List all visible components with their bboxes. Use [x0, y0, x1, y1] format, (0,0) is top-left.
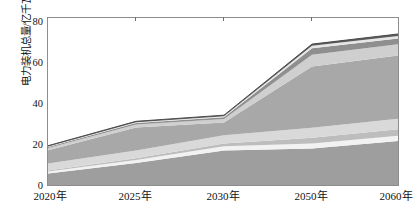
y-tick-label-40: 40 — [17, 99, 43, 109]
x-tick-label-2020: 2020年 — [18, 190, 82, 202]
stacked-area-series — [48, 18, 399, 186]
x-tick-label-2060: 2060年 — [364, 190, 416, 202]
x-tick-mark — [311, 17, 312, 21]
y-tick-label-80: 80 — [17, 17, 43, 27]
x-tick-label-2050: 2050年 — [279, 190, 343, 202]
x-tick-mark — [223, 17, 224, 21]
x-tick-mark — [135, 17, 136, 21]
chart-figure: 电力装机总量/亿千瓦 80 60 40 20 0 2020年 2025年 203… — [0, 0, 416, 220]
plot-area — [47, 17, 399, 186]
x-tick-label-2025: 2025年 — [103, 190, 167, 202]
x-tick-label-2030: 2030年 — [191, 190, 255, 202]
y-tick-label-60: 60 — [17, 58, 43, 68]
y-tick-label-20: 20 — [17, 140, 43, 150]
